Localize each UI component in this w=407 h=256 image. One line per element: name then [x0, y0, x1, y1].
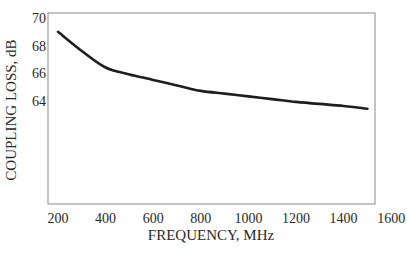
y-tick-label: 64 — [32, 94, 46, 109]
x-axis-ticks: 2004006008001000120014001600 — [48, 211, 406, 226]
y-axis-label: COUPLING LOSS, dB — [3, 39, 19, 180]
x-tick-label: 400 — [95, 211, 116, 226]
plot-frame — [48, 13, 375, 204]
x-tick-label: 1400 — [330, 211, 358, 226]
x-tick-label: 800 — [190, 211, 211, 226]
x-tick-label: 1600 — [377, 211, 405, 226]
x-axis-label: FREQUENCY, MHz — [148, 227, 275, 243]
y-axis-ticks: 64666870 — [32, 11, 46, 109]
y-tick-label: 68 — [32, 39, 46, 54]
y-tick-label: 66 — [32, 66, 46, 81]
x-tick-label: 200 — [48, 211, 69, 226]
x-tick-label: 1200 — [282, 211, 310, 226]
x-tick-label: 600 — [143, 211, 164, 226]
y-tick-label: 70 — [32, 11, 46, 26]
chart: 64666870 2004006008001000120014001600 FR… — [0, 0, 407, 256]
line-chart: 64666870 2004006008001000120014001600 FR… — [0, 0, 407, 256]
x-tick-label: 1000 — [234, 211, 262, 226]
coupling-loss-line — [58, 32, 367, 109]
